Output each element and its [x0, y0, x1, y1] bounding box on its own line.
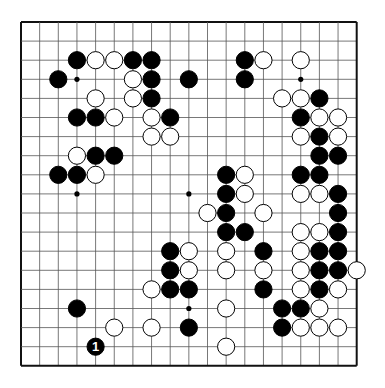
white-stone[interactable]: [311, 319, 328, 336]
black-stone[interactable]: [292, 300, 309, 317]
black-stone[interactable]: [106, 147, 123, 164]
black-stone[interactable]: [162, 109, 179, 126]
white-stone[interactable]: [199, 204, 216, 221]
star-point: [298, 77, 303, 82]
black-stone[interactable]: [329, 147, 346, 164]
go-board[interactable]: 1: [0, 0, 385, 388]
black-stone[interactable]: [68, 52, 85, 69]
star-point: [74, 191, 79, 196]
black-stone[interactable]: [311, 90, 328, 107]
white-stone[interactable]: [106, 319, 123, 336]
star-point: [186, 306, 191, 311]
black-stone[interactable]: [87, 147, 104, 164]
white-stone[interactable]: [311, 109, 328, 126]
white-stone[interactable]: [292, 185, 309, 202]
white-stone[interactable]: [292, 128, 309, 145]
white-stone[interactable]: [162, 128, 179, 145]
black-stone[interactable]: [311, 128, 328, 145]
white-stone[interactable]: [218, 262, 235, 279]
black-stone[interactable]: [236, 224, 253, 241]
black-stone[interactable]: [236, 52, 253, 69]
white-stone[interactable]: [143, 128, 160, 145]
white-stone[interactable]: [68, 147, 85, 164]
black-stone[interactable]: [162, 243, 179, 260]
black-stone[interactable]: [311, 262, 328, 279]
black-stone[interactable]: [255, 281, 272, 298]
star-point: [74, 77, 79, 82]
white-stone[interactable]: [292, 90, 309, 107]
white-stone[interactable]: [236, 166, 253, 183]
black-stone[interactable]: [218, 185, 235, 202]
white-stone[interactable]: [236, 185, 253, 202]
white-stone[interactable]: [292, 262, 309, 279]
black-stone[interactable]: [87, 109, 104, 126]
black-stone[interactable]: [162, 281, 179, 298]
white-stone[interactable]: [329, 319, 346, 336]
move-number-label: 1: [92, 339, 99, 354]
black-stone[interactable]: [329, 224, 346, 241]
white-stone[interactable]: [348, 262, 365, 279]
white-stone[interactable]: [218, 300, 235, 317]
white-stone[interactable]: [180, 243, 197, 260]
white-stone[interactable]: [87, 166, 104, 183]
white-stone[interactable]: [255, 262, 272, 279]
white-stone[interactable]: [292, 52, 309, 69]
black-stone[interactable]: [311, 147, 328, 164]
black-stone[interactable]: [143, 90, 160, 107]
black-stone[interactable]: [180, 281, 197, 298]
white-stone[interactable]: [311, 300, 328, 317]
black-stone[interactable]: [236, 71, 253, 88]
white-stone[interactable]: [292, 243, 309, 260]
white-stone[interactable]: [329, 109, 346, 126]
black-stone[interactable]: [255, 243, 272, 260]
white-stone[interactable]: [180, 262, 197, 279]
white-stone[interactable]: [311, 224, 328, 241]
white-stone[interactable]: [106, 52, 123, 69]
white-stone[interactable]: [143, 319, 160, 336]
black-stone[interactable]: [143, 52, 160, 69]
black-stone[interactable]: [50, 71, 67, 88]
black-stone[interactable]: [292, 109, 309, 126]
white-stone[interactable]: [255, 52, 272, 69]
white-stone[interactable]: [311, 185, 328, 202]
white-stone[interactable]: [106, 109, 123, 126]
white-stone[interactable]: [218, 243, 235, 260]
black-stone[interactable]: [311, 166, 328, 183]
white-stone[interactable]: [292, 224, 309, 241]
black-stone[interactable]: [218, 224, 235, 241]
black-stone[interactable]: [329, 204, 346, 221]
black-stone[interactable]: [218, 166, 235, 183]
black-stone[interactable]: [311, 243, 328, 260]
white-stone[interactable]: [329, 281, 346, 298]
white-stone[interactable]: [87, 90, 104, 107]
black-stone[interactable]: [329, 185, 346, 202]
black-stone[interactable]: [50, 166, 67, 183]
black-stone[interactable]: [218, 204, 235, 221]
black-stone[interactable]: [162, 262, 179, 279]
black-stone[interactable]: [274, 319, 291, 336]
black-stone[interactable]: [68, 166, 85, 183]
white-stone[interactable]: [124, 90, 141, 107]
white-stone[interactable]: [143, 109, 160, 126]
black-stone[interactable]: [143, 71, 160, 88]
black-stone[interactable]: [180, 71, 197, 88]
black-stone[interactable]: [180, 319, 197, 336]
black-stone[interactable]: [68, 300, 85, 317]
white-stone[interactable]: [255, 204, 272, 221]
white-stone[interactable]: [274, 90, 291, 107]
black-stone[interactable]: 1: [87, 338, 104, 355]
white-stone[interactable]: [124, 71, 141, 88]
black-stone[interactable]: [274, 300, 291, 317]
black-stone[interactable]: [124, 52, 141, 69]
white-stone[interactable]: [292, 281, 309, 298]
white-stone[interactable]: [218, 338, 235, 355]
white-stone[interactable]: [87, 52, 104, 69]
black-stone[interactable]: [68, 109, 85, 126]
black-stone[interactable]: [329, 262, 346, 279]
white-stone[interactable]: [292, 319, 309, 336]
white-stone[interactable]: [329, 128, 346, 145]
black-stone[interactable]: [292, 166, 309, 183]
black-stone[interactable]: [311, 281, 328, 298]
black-stone[interactable]: [329, 243, 346, 260]
white-stone[interactable]: [143, 281, 160, 298]
